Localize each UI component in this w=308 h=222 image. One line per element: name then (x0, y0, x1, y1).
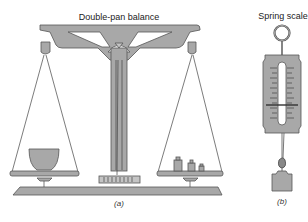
right-hanger (188, 42, 196, 54)
left-pan-support (37, 178, 52, 181)
weight-medium-knob (190, 160, 193, 163)
pointer-scale (99, 176, 140, 183)
left-hanger (41, 42, 50, 54)
right-pan-string-inner (193, 55, 222, 172)
left-pan (10, 171, 79, 176)
spring-scale-caption: (b) (277, 197, 287, 206)
weight-large (174, 160, 182, 171)
figure-canvas: Double-pan balance (0, 0, 308, 222)
weight-small (199, 166, 204, 171)
weights (174, 157, 204, 171)
right-pan (157, 171, 223, 176)
spring-scale: Spring scale (b) (258, 11, 308, 206)
weight-medium (188, 163, 195, 171)
balance-column (111, 48, 127, 171)
spring-scale-title: Spring scale (258, 11, 308, 21)
right-pan-string-outer (158, 55, 192, 172)
hanging-block (272, 171, 292, 191)
balance-title: Double-pan balance (79, 12, 160, 22)
balance-base (13, 187, 222, 195)
bowl-object (29, 149, 59, 170)
double-pan-balance: Double-pan balance (10, 12, 223, 208)
hook-wire (282, 133, 284, 158)
hook-knot (278, 158, 285, 168)
right-pan-support (183, 178, 198, 181)
balance-caption: (a) (114, 199, 124, 208)
weight-large-knob (176, 157, 180, 160)
scale-slot (278, 62, 286, 125)
weight-small-knob (200, 164, 203, 166)
